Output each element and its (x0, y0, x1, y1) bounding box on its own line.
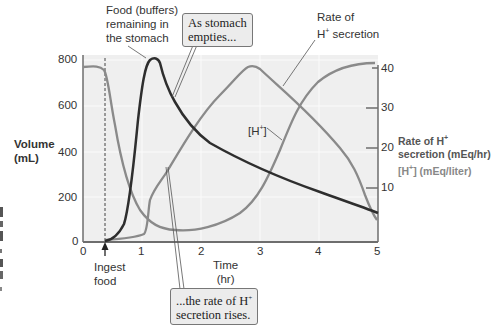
ingest-food-label: Ingest food (94, 260, 125, 288)
callout-bot-sup: + (248, 294, 252, 302)
callout-top-line2: empties... (188, 30, 247, 44)
food-annotation-line3: the stomach (106, 31, 178, 45)
x-tick-2: 2 (198, 245, 204, 257)
y-right-tick-20: 20 (381, 141, 394, 153)
x-axis-title: Time (hr) (213, 258, 238, 286)
left-axis-title-line1: Volume (14, 137, 55, 151)
food-annotation-line2: remaining in (106, 17, 178, 31)
x-tick-1: 1 (138, 245, 144, 257)
y-left-tick-800: 800 (58, 53, 77, 65)
y-right-tick-30: 30 (381, 101, 394, 113)
x-axis-title-line1: Time (213, 258, 238, 272)
secretion-rises-callout: ...the rate of H+ secretion rises. (170, 288, 258, 325)
y-left-tick-0: 0 (72, 235, 78, 247)
y-right-tick-40: 40 (381, 62, 394, 74)
ingest-arrow-icon (102, 242, 109, 256)
h-annotation-post: ] (264, 125, 267, 137)
callout-bot-line1: ...the rate of H (176, 294, 248, 308)
left-axis-title-line2: (mL) (14, 151, 55, 165)
x-tick-4: 4 (315, 245, 321, 257)
rate-annotation: Rate of H+ secretion (317, 10, 379, 41)
y-left-tick-200: 200 (58, 191, 77, 203)
right-axis-title: Rate of H+ secretion (mEq/hr) [H+] (mEq/… (398, 131, 491, 178)
x-tick-3: 3 (257, 245, 263, 257)
right-title-rate: Rate of H (398, 135, 444, 147)
h-annotation-pre: [H (248, 125, 260, 137)
left-axis-title: Volume (mL) (14, 137, 55, 165)
right-title-h-units: ] (mEq/liter) (413, 165, 471, 177)
rate-annotation-line1: Rate of (317, 10, 379, 24)
rate-secretion: secretion (329, 28, 379, 40)
y-left-tick-600: 600 (58, 99, 77, 111)
food-annotation-line1: Food (buffers) (106, 3, 178, 17)
callout-top-line1: As stomach (188, 16, 247, 30)
x-axis-title-line2: (hr) (213, 272, 238, 286)
callout-bot-line2: secretion rises. (176, 308, 252, 322)
stomach-empties-callout: As stomach empties... (182, 13, 253, 47)
y-left-tick-400: 400 (58, 146, 77, 158)
ingest-line1: Ingest (94, 260, 125, 274)
x-tick-0: 0 (80, 245, 86, 257)
h-annotation: [H+] (248, 121, 267, 138)
right-title-rate-sup: + (444, 134, 448, 141)
food-annotation: Food (buffers) remaining in the stomach (106, 3, 178, 45)
x-tick-5: 5 (374, 245, 380, 257)
right-title-h-pre: [H (398, 165, 409, 177)
right-title-secretion-units: secretion (mEq/hr) (398, 148, 491, 161)
y-right-tick-10: 10 (381, 181, 394, 193)
ingest-line2: food (94, 274, 125, 288)
